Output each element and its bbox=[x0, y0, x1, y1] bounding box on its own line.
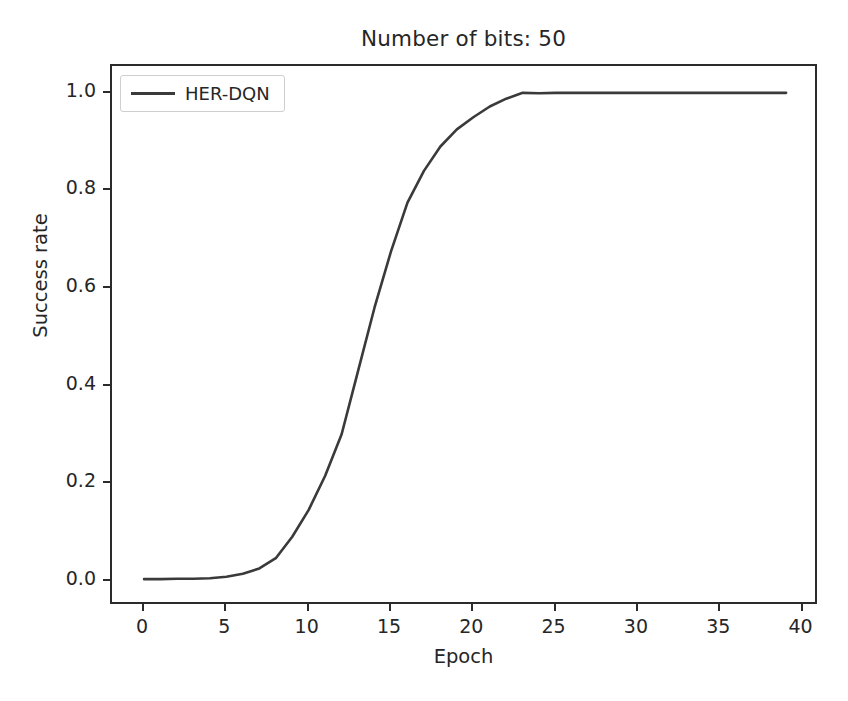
y-tick-label: 0.2 bbox=[26, 469, 96, 491]
x-tick-mark bbox=[554, 604, 556, 611]
x-tick-label: 5 bbox=[194, 615, 254, 637]
x-tick-mark bbox=[718, 604, 720, 611]
legend-label-her-dqn: HER-DQN bbox=[185, 83, 270, 104]
y-tick-mark bbox=[103, 286, 110, 288]
legend-line-swatch bbox=[131, 92, 175, 95]
plot-area: HER-DQN bbox=[110, 64, 817, 604]
x-tick-label: 25 bbox=[524, 615, 584, 637]
y-tick-mark bbox=[103, 481, 110, 483]
legend: HER-DQN bbox=[120, 75, 285, 112]
x-tick-mark bbox=[801, 604, 803, 611]
y-tick-mark bbox=[103, 188, 110, 190]
series-line-her-dqn bbox=[112, 66, 819, 606]
y-tick-mark bbox=[103, 579, 110, 581]
figure-canvas: Number of bits: 50 HER-DQN 0510152025303… bbox=[0, 0, 848, 701]
x-tick-label: 15 bbox=[359, 615, 419, 637]
y-axis-label: Success rate bbox=[29, 176, 52, 376]
x-tick-label: 20 bbox=[441, 615, 501, 637]
x-tick-mark bbox=[307, 604, 309, 611]
x-tick-mark bbox=[389, 604, 391, 611]
y-tick-mark bbox=[103, 384, 110, 386]
x-tick-label: 35 bbox=[688, 615, 748, 637]
y-tick-mark bbox=[103, 91, 110, 93]
x-tick-label: 40 bbox=[771, 615, 831, 637]
x-tick-mark bbox=[636, 604, 638, 611]
x-tick-mark bbox=[142, 604, 144, 611]
y-tick-label: 0.0 bbox=[26, 567, 96, 589]
chart-title: Number of bits: 50 bbox=[110, 26, 817, 51]
x-axis-label: Epoch bbox=[110, 645, 817, 668]
y-tick-label: 1.0 bbox=[26, 79, 96, 101]
x-tick-label: 30 bbox=[606, 615, 666, 637]
x-tick-label: 10 bbox=[277, 615, 337, 637]
x-tick-label: 0 bbox=[112, 615, 172, 637]
x-tick-mark bbox=[224, 604, 226, 611]
x-tick-mark bbox=[471, 604, 473, 611]
